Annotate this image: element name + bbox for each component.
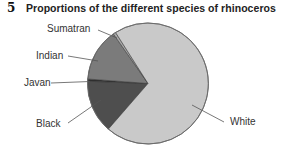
leader-line-javan (51, 82, 90, 84)
label-black: Black (36, 118, 60, 130)
label-javan: Javan (24, 77, 51, 89)
pie-slices (87, 23, 208, 144)
label-indian: Indian (36, 50, 63, 62)
label-sumatran: Sumatran (47, 23, 90, 35)
label-white: White (230, 116, 256, 128)
